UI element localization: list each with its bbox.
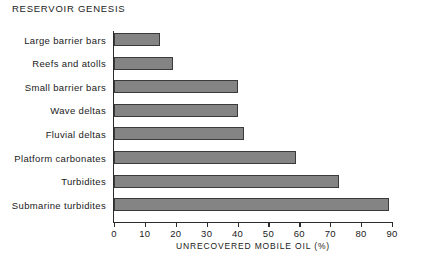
category-label-holder: Turbidites xyxy=(0,175,106,188)
x-axis-tick xyxy=(176,223,177,227)
x-axis-tick-label: 80 xyxy=(356,228,367,239)
x-axis-tick xyxy=(299,223,300,227)
bar-rect xyxy=(114,151,296,164)
x-axis-tick-label: 60 xyxy=(294,228,305,239)
bar xyxy=(114,104,238,117)
x-axis-tick-label: 30 xyxy=(201,228,212,239)
category-label-holder: Small barrier bars xyxy=(0,80,106,93)
x-axis-tick-label: 70 xyxy=(325,228,336,239)
bar-rect xyxy=(114,57,173,70)
category-label: Fluvial deltas xyxy=(46,128,106,139)
category-label-holder: Large barrier bars xyxy=(0,33,106,46)
x-axis-tick xyxy=(330,223,331,227)
x-axis-line xyxy=(113,222,393,223)
category-label-holder: Reefs and atolls xyxy=(0,57,106,70)
bar-rect xyxy=(114,127,244,140)
category-label: Platform carbonates xyxy=(14,152,106,163)
category-label-holder: Submarine turbidites xyxy=(0,198,106,211)
x-axis-tick-label: 90 xyxy=(386,228,397,239)
bar xyxy=(114,127,244,140)
category-label: Reefs and atolls xyxy=(32,58,106,69)
x-axis-tick xyxy=(145,223,146,227)
x-axis-tick-label: 50 xyxy=(263,228,274,239)
x-axis-title: UNRECOVERED MOBILE OIL (%) xyxy=(114,241,392,251)
x-axis-tick xyxy=(207,223,208,227)
bar-rect xyxy=(114,175,339,188)
category-label-holder: Wave deltas xyxy=(0,104,106,117)
x-axis-tick xyxy=(268,223,269,227)
bar-chart-figure: RESERVOIR GENESIS Large barrier barsReef… xyxy=(0,0,425,261)
x-axis-tick xyxy=(238,223,239,227)
bar xyxy=(114,151,296,164)
category-label: Submarine turbidites xyxy=(12,199,106,210)
bar xyxy=(114,80,238,93)
x-axis-tick-label: 40 xyxy=(232,228,243,239)
category-label-holder: Platform carbonates xyxy=(0,151,106,164)
x-axis-tick-label: 20 xyxy=(170,228,181,239)
category-label-holder: Fluvial deltas xyxy=(0,127,106,140)
x-axis-tick xyxy=(114,223,115,227)
bar-rect xyxy=(114,198,389,211)
x-axis-tick xyxy=(361,223,362,227)
bar-rect xyxy=(114,33,160,46)
category-label: Wave deltas xyxy=(50,105,106,116)
bar xyxy=(114,33,160,46)
x-axis-tick xyxy=(392,223,393,227)
bar xyxy=(114,198,389,211)
bar xyxy=(114,57,173,70)
bar-rect xyxy=(114,104,238,117)
category-label: Small barrier bars xyxy=(25,81,106,92)
bar xyxy=(114,175,339,188)
bar-rect xyxy=(114,80,238,93)
category-label: Turbidites xyxy=(61,176,106,187)
x-axis-tick-label: 0 xyxy=(111,228,117,239)
category-label: Large barrier bars xyxy=(24,34,106,45)
x-axis-tick-label: 10 xyxy=(139,228,150,239)
plot-area: Large barrier barsReefs and atollsSmall … xyxy=(0,0,425,261)
